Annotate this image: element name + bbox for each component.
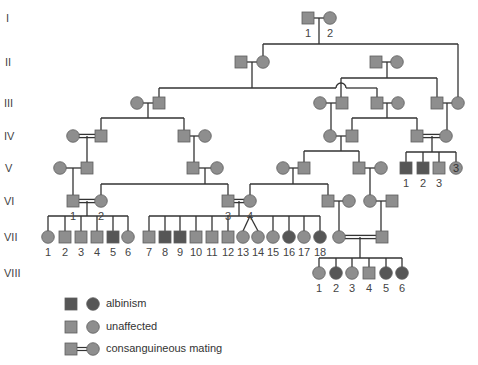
individual-number: 18 [314, 246, 326, 258]
unaffected-female [54, 162, 67, 175]
unaffected-male [411, 130, 423, 142]
individual-number: 6 [125, 246, 131, 258]
unaffected-male [91, 231, 103, 243]
unaffected-male [95, 130, 107, 142]
unaffected-male [433, 162, 445, 174]
individual-number: 1 [70, 210, 76, 222]
unaffected-male [376, 231, 388, 243]
legend-label-consanguineous: consanguineous mating [106, 342, 222, 354]
individual-number: 2 [98, 210, 104, 222]
unaffected-male [298, 162, 310, 174]
individual-number: 14 [252, 246, 264, 258]
unaffected-male [222, 195, 234, 207]
individual-number: 10 [190, 246, 202, 258]
unaffected-male [178, 130, 190, 142]
individual-number: 11 [206, 246, 217, 258]
unaffected-female [324, 130, 337, 143]
unaffected-female [257, 56, 270, 69]
unaffected-male [371, 97, 383, 109]
unaffected-female [298, 231, 311, 244]
legend [65, 298, 99, 356]
individual-number: 12 [222, 246, 234, 258]
individual-number: 3 [349, 282, 355, 294]
individual-number: 6 [399, 282, 405, 294]
legend-label-unaffected: unaffected [106, 320, 157, 332]
affected-male [417, 162, 429, 174]
unaffected-male [322, 195, 334, 207]
unaffected-female [131, 97, 144, 110]
affected-male [159, 231, 171, 243]
unaffected-female [252, 231, 265, 244]
individual-number: 8 [162, 246, 168, 258]
unaffected-male [363, 267, 375, 279]
individual-number: 4 [366, 282, 372, 294]
pedigree-lines: 3 12123123412345678910111213141516171812… [0, 0, 478, 365]
legend-affected-square [65, 298, 77, 310]
unaffected-male [153, 97, 165, 109]
legend-unaffected-square [65, 321, 77, 333]
unaffected-female [391, 56, 404, 69]
individual-number: 1 [45, 246, 51, 258]
unaffected-female [333, 231, 346, 244]
individual-number: 3 [78, 246, 84, 258]
affected-female [380, 267, 393, 280]
unaffected-male [353, 162, 365, 174]
unaffected-male [431, 97, 443, 109]
unaffected-male [206, 231, 218, 243]
affected-female [330, 267, 343, 280]
unaffected-male [336, 97, 348, 109]
individual-number: 15 [267, 246, 279, 258]
unaffected-male [386, 195, 398, 207]
unaffected-male [370, 56, 382, 68]
unaffected-female [440, 130, 453, 143]
individual-number: 1 [316, 282, 322, 294]
unaffected-female [237, 231, 250, 244]
unaffected-female [375, 162, 388, 175]
individual-number: 3 [225, 210, 231, 222]
unaffected-male [143, 231, 155, 243]
individual-number: 2 [327, 27, 333, 39]
unaffected-female [277, 162, 290, 175]
unaffected-female [314, 97, 327, 110]
unaffected-female [122, 231, 135, 244]
unaffected-male [81, 162, 93, 174]
legend-unaffected-circle [87, 321, 100, 334]
unaffected-male [67, 195, 79, 207]
unaffected-female [364, 195, 377, 208]
individual-number: 5 [110, 246, 116, 258]
affected-female [283, 231, 296, 244]
pedigree-diagram: I II III IV V VI VII VIII [0, 0, 478, 365]
individual-number: 2 [420, 177, 426, 189]
unaffected-female [244, 195, 257, 208]
legend-affected-circle [87, 298, 100, 311]
unaffected-female [343, 195, 356, 208]
individual-number: 4 [94, 246, 100, 258]
group-count: 3 [453, 162, 459, 174]
unaffected-male [59, 231, 71, 243]
individual-number: 4 [247, 210, 253, 222]
individual-number: 1 [305, 27, 311, 39]
affected-male [174, 231, 186, 243]
unaffected-female [392, 97, 405, 110]
affected-female [396, 267, 409, 280]
unaffected-female [211, 162, 224, 175]
legend-label-albinism: albinism [106, 297, 146, 309]
legend-consanguineous-circle [87, 343, 100, 356]
unaffected-female [324, 12, 337, 25]
affected-male [107, 231, 119, 243]
legend-consanguineous-square [65, 343, 77, 355]
unaffected-female [346, 267, 359, 280]
unaffected-male [222, 231, 234, 243]
unaffected-male [187, 162, 199, 174]
individual-number: 16 [283, 246, 295, 258]
unaffected-female [267, 231, 280, 244]
unaffected-male [346, 130, 358, 142]
unaffected-male [190, 231, 202, 243]
unaffected-female [95, 195, 108, 208]
unaffected-female [42, 231, 55, 244]
unaffected-female [199, 130, 212, 143]
affected-male [400, 162, 412, 174]
individual-number: 7 [146, 246, 152, 258]
unaffected-female [67, 130, 80, 143]
individual-number: 2 [333, 282, 339, 294]
